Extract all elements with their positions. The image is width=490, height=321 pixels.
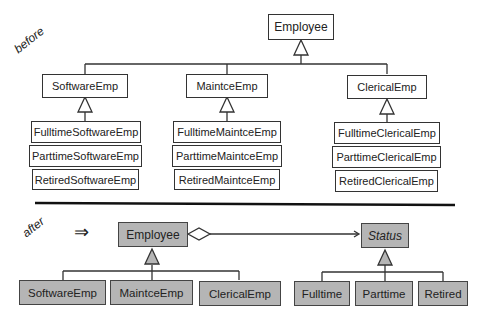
fulltime-clericalemp-box: FulltimeClericalEmp — [334, 122, 440, 144]
fulltime-status-box: Fulltime — [294, 281, 350, 306]
parttime-softwareemp-box: ParttimeSoftwareEmp — [29, 145, 142, 167]
fulltime-maintceemp-box: FulltimeMaintceEmp — [173, 121, 281, 143]
after-clericalemp-box: ClericalEmp — [199, 281, 281, 306]
transform-arrow-icon: ⇒ — [74, 221, 89, 243]
after-maintceemp-box: MaintceEmp — [110, 280, 193, 305]
fulltime-softwareemp-box: FulltimeSoftwareEmp — [31, 121, 141, 143]
softwareemp-box: SoftwareEmp — [42, 74, 128, 98]
retired-maintceemp-box: RetiredMaintceEmp — [174, 169, 280, 190]
status-box: Status — [361, 223, 409, 248]
parttime-maintceemp-box: ParttimeMaintceEmp — [172, 145, 282, 167]
maintceemp-box: MaintceEmp — [186, 74, 268, 98]
retired-softwareemp-box: RetiredSoftwareEmp — [32, 169, 139, 190]
clericalemp-box: ClericalEmp — [347, 75, 427, 99]
after-softwareemp-box: SoftwareEmp — [19, 280, 106, 305]
retired-status-box: Retired — [418, 281, 468, 306]
before-employee-box: Employee — [268, 14, 334, 40]
parttime-status-box: Parttime — [355, 281, 413, 306]
retired-clericalemp-box: RetiredClericalEmp — [335, 170, 438, 192]
after-employee-box: Employee — [118, 222, 188, 247]
parttime-clericalemp-box: ParttimeClericalEmp — [332, 146, 441, 168]
